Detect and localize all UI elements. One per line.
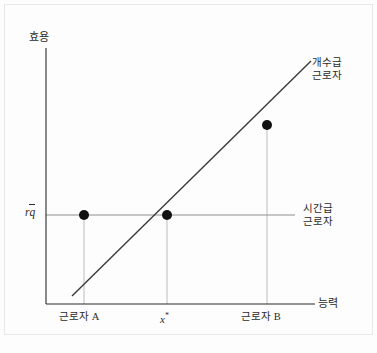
data-point-x-star — [162, 210, 172, 220]
x-tick-label-worker-b: 근로자 B — [241, 311, 281, 324]
annotation-hourly-line2: 근로자 — [303, 216, 333, 229]
data-point-worker-b — [262, 120, 272, 130]
annotation-piece-rate-line1: 개수급 — [312, 57, 342, 70]
y-axis-label: 효용 — [29, 31, 49, 44]
annotation-piece-rate-worker: 개수급 근로자 — [312, 57, 342, 83]
x-tick-label-x-star: x* — [160, 311, 169, 326]
y-tick-label-rq: rq — [25, 205, 35, 219]
annotation-hourly-line1: 시간급 — [303, 203, 333, 216]
x-tick-label-worker-a: 근로자 A — [59, 311, 99, 324]
figure-canvas: 효용 능력 rq 개수급 근로자 시간급 근로자 근로자 A x* 근로자 B — [0, 0, 377, 353]
x-star-superscript: * — [165, 311, 169, 320]
piece-rate-line — [72, 61, 311, 296]
annotation-hourly-worker: 시간급 근로자 — [303, 203, 333, 229]
y-tick-q-bar: q — [29, 205, 35, 219]
annotation-piece-rate-line2: 근로자 — [312, 70, 342, 83]
x-axis-label: 능력 — [318, 297, 338, 310]
data-point-worker-a — [79, 210, 89, 220]
